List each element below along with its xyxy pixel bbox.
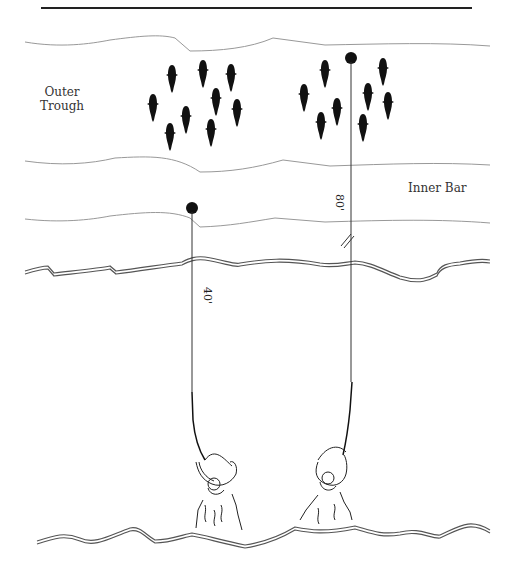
outer-trough-bottom-line [25, 157, 490, 172]
outer-trough-label-line2: Trough [40, 99, 84, 113]
outer-trough-label-line1: Outer [44, 85, 79, 99]
short-cast-line [186, 202, 205, 460]
long-cast-distance: 80' [333, 194, 346, 211]
short-cast-distance: 40' [201, 287, 214, 304]
angler-right [300, 447, 352, 524]
fish-school-right [298, 58, 394, 142]
shoreline [25, 257, 490, 282]
diagram-canvas: Outer Trough Inner Bar 40' 80' [0, 0, 516, 577]
angler-left [196, 454, 242, 530]
inner-bar-bottom-line [25, 213, 490, 228]
long-cast-line [341, 52, 357, 455]
foreground-wave [37, 524, 490, 548]
fish-school-left [147, 60, 243, 151]
outer-trough-top-line [25, 36, 490, 51]
inner-bar-label: Inner Bar [408, 181, 467, 195]
